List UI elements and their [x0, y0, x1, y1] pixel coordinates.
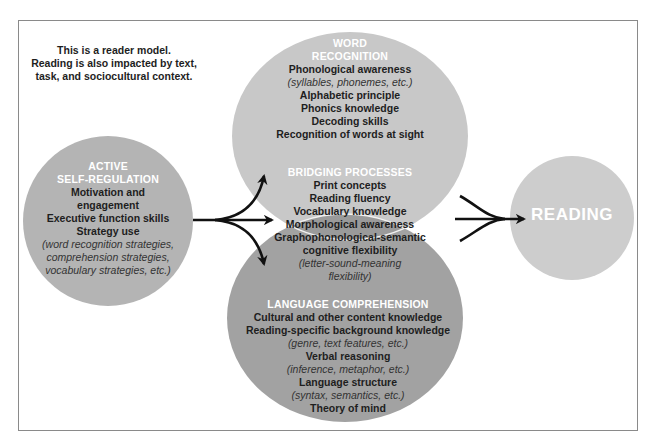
- list-item: cognitive flexibility: [255, 244, 445, 257]
- section-heading: ACTIVE: [28, 160, 188, 173]
- note-line: Reading is also impacted by text,: [30, 57, 198, 70]
- section-heading: WORD: [255, 37, 445, 50]
- bridging-processes-text: BRIDGING PROCESSES Print concepts Readin…: [255, 166, 445, 283]
- list-item: Decoding skills: [255, 115, 445, 128]
- list-item: (inference, metaphor, etc.): [238, 363, 458, 376]
- list-item: vocabulary strategies, etc.): [28, 264, 188, 277]
- list-item: (word recognition strategies,: [28, 238, 188, 251]
- list-item: comprehension strategies,: [28, 251, 188, 264]
- section-heading: LANGUAGE COMPREHENSION: [238, 298, 458, 311]
- section-heading: BRIDGING PROCESSES: [255, 166, 445, 179]
- list-item: Print concepts: [255, 179, 445, 192]
- list-item: Motivation and: [28, 186, 188, 199]
- list-item: Phonics knowledge: [255, 102, 445, 115]
- list-item: Reading-specific background knowledge: [238, 324, 458, 337]
- reader-model-note: This is a reader model. Reading is also …: [30, 44, 198, 83]
- reading-label: READING: [512, 205, 632, 225]
- list-item: engagement: [28, 199, 188, 212]
- list-item: Language structure: [238, 376, 458, 389]
- list-item: Verbal reasoning: [238, 350, 458, 363]
- list-item: (genre, text features, etc.): [238, 337, 458, 350]
- list-item: Theory of mind: [238, 402, 458, 415]
- section-heading: RECOGNITION: [255, 50, 445, 63]
- note-line: task, and sociocultural context.: [30, 70, 198, 83]
- list-item: Cultural and other content knowledge: [238, 311, 458, 324]
- list-item: Alphabetic principle: [255, 89, 445, 102]
- section-heading: SELF-REGULATION: [28, 173, 188, 186]
- note-line: This is a reader model.: [30, 44, 198, 57]
- language-comprehension-text: LANGUAGE COMPREHENSION Cultural and othe…: [238, 298, 458, 415]
- list-item: Recognition of words at sight: [255, 128, 445, 141]
- list-item: Strategy use: [28, 225, 188, 238]
- list-item: Vocabulary knowledge: [255, 205, 445, 218]
- list-item: Graphophonological-semantic: [255, 231, 445, 244]
- list-item: Reading fluency: [255, 192, 445, 205]
- list-item: (letter-sound-meaning: [255, 257, 445, 270]
- list-item: Phonological awareness: [255, 63, 445, 76]
- list-item: Morphological awareness: [255, 218, 445, 231]
- self-regulation-text: ACTIVE SELF-REGULATION Motivation and en…: [28, 160, 188, 277]
- list-item: (syntax, semantics, etc.): [238, 389, 458, 402]
- list-item: flexibility): [255, 270, 445, 283]
- word-recognition-text: WORD RECOGNITION Phonological awareness …: [255, 37, 445, 141]
- list-item: (syllables, phonemes, etc.): [255, 76, 445, 89]
- list-item: Executive function skills: [28, 212, 188, 225]
